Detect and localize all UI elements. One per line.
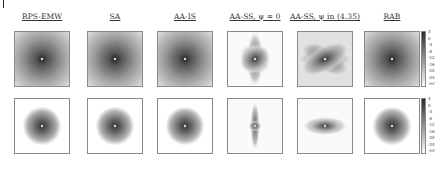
colorbar-tick-label: 4 xyxy=(428,30,431,34)
colorbar-tick-label: -12 xyxy=(428,123,435,127)
source-point xyxy=(324,125,327,128)
column-title-aa-is: AA-IS xyxy=(174,12,196,21)
colorbar-tick-label: -20 xyxy=(428,69,435,73)
heatmap-panel-row-2-col-1 xyxy=(14,98,70,154)
column-title-aa-ss-psi0: AA-SS, ψ = 0 xyxy=(230,12,281,21)
colorbar-tick-label: -16 xyxy=(428,130,435,134)
source-point xyxy=(184,58,187,61)
heatmap-panel-row-2-col-4 xyxy=(227,98,283,154)
heatmap-panel-row-2-col-6 xyxy=(364,98,420,154)
colorbar-tick-label: -24 xyxy=(428,76,435,80)
colorbar-row-2 xyxy=(421,98,426,154)
colorbar-tick-label: -8 xyxy=(428,50,432,54)
source-point xyxy=(391,125,394,128)
colorbar-tick-label: -Inf xyxy=(428,149,435,153)
colorbar-tick-label: -4 xyxy=(428,110,432,114)
colorbar-tick-label: -8 xyxy=(428,117,432,121)
heatmap-panel-row-2-col-3 xyxy=(157,98,213,154)
heatmap-panel-row-1-col-2 xyxy=(87,31,143,87)
colorbar-tick-label: -24 xyxy=(428,143,435,147)
column-title-aa-ss-psi435: AA-SS, ψ in (4.35) xyxy=(290,12,360,21)
colorbar-tick-label: -4 xyxy=(428,43,432,47)
source-point xyxy=(324,58,327,61)
column-title-sa: SA xyxy=(110,12,121,21)
colorbar-tick-label: 4 xyxy=(428,97,431,101)
heatmap-panel-row-1-col-1 xyxy=(14,31,70,87)
colorbar-tick-label: 0 xyxy=(428,104,431,108)
source-point xyxy=(391,58,394,61)
column-title-rps-emw: RPS-EMW xyxy=(22,12,62,21)
heatmap-panel-row-2-col-5 xyxy=(297,98,353,154)
source-point xyxy=(184,125,187,128)
source-point xyxy=(254,125,257,128)
colorbar-tick-label: 0 xyxy=(428,37,431,41)
source-point xyxy=(41,58,44,61)
colorbar-tick-label: -16 xyxy=(428,63,435,67)
colorbar-row-1 xyxy=(421,31,426,87)
colorbar-tick-label: -20 xyxy=(428,136,435,140)
page-edge-marker xyxy=(3,0,4,8)
heatmap-panel-row-1-col-6 xyxy=(364,31,420,87)
colorbar-tick-label: -Inf xyxy=(428,82,435,86)
source-point xyxy=(114,125,117,128)
heatmap-panel-row-2-col-2 xyxy=(87,98,143,154)
heatmap-panel-row-1-col-4 xyxy=(227,31,283,87)
colorbar-tick-label: -12 xyxy=(428,56,435,60)
source-point xyxy=(254,58,257,61)
source-point xyxy=(41,125,44,128)
source-point xyxy=(114,58,117,61)
heatmap-panel-row-1-col-5 xyxy=(297,31,353,87)
heatmap-panel-row-1-col-3 xyxy=(157,31,213,87)
column-title-rab: RAB xyxy=(384,12,401,21)
